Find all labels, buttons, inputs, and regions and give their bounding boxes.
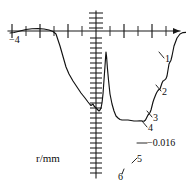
value-callout-label: −0.016 — [147, 138, 175, 148]
annotation-label-4: 4 — [148, 123, 153, 133]
annotation-label-6: 6 — [118, 172, 123, 182]
leader-4 — [142, 121, 147, 127]
annotation-label-1: 1 — [165, 54, 170, 64]
x-axis-arrowhead — [173, 28, 180, 34]
annotation-label-2: 2 — [162, 87, 167, 97]
annotation-label-3: 3 — [153, 113, 158, 123]
annotation-label-5: 5 — [137, 154, 142, 164]
x-tick-label-minus4: −4 — [9, 35, 20, 45]
chart-canvas — [0, 0, 186, 189]
profile-chart-figure: −4 1 2 3 4 5 6 −0.016 r/mm — [0, 0, 186, 189]
leader-1 — [159, 52, 164, 58]
x-axis-label: r/mm — [36, 153, 60, 164]
